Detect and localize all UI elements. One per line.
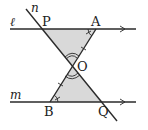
label-o: O (77, 59, 88, 74)
label-b: B (44, 104, 54, 119)
label-m: m (10, 88, 21, 102)
label-l: ℓ (10, 15, 15, 29)
label-a: A (90, 14, 101, 29)
label-p: P (42, 14, 51, 29)
label-n: n (31, 1, 39, 15)
label-q: Q (98, 104, 109, 119)
geometry-diagram: n ℓ m P A O B Q (0, 0, 148, 130)
